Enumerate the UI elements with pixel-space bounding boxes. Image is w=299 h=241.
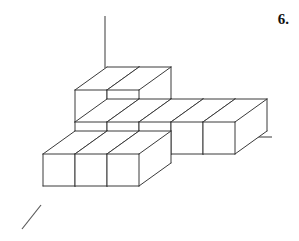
- problem-number-label: 6.: [278, 12, 289, 27]
- cube-front-face: [171, 122, 203, 154]
- cube-front-face: [107, 154, 139, 186]
- cube-front-face: [203, 122, 235, 154]
- left-diagonal-axis: [22, 205, 41, 229]
- cube-front-face: [43, 154, 75, 186]
- isometric-cube-diagram: [0, 0, 299, 241]
- cube-solid-group: [43, 67, 267, 186]
- figure-canvas: 6.: [0, 0, 299, 241]
- cube-front-face: [75, 154, 107, 186]
